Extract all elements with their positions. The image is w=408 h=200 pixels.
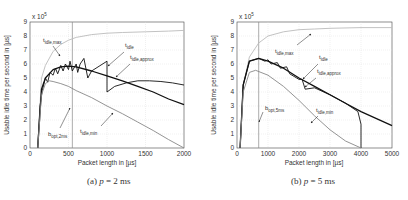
y-tick-label: 7 xyxy=(23,46,27,53)
x-axis-label-a: Packet length in [µs] xyxy=(78,159,137,167)
x-tick-label: 0 xyxy=(235,150,239,157)
y-tick-label: 1 xyxy=(230,130,234,137)
chart-b: 0123456789010002000300040005000 x 105 Us… xyxy=(210,12,400,167)
plot-area-b xyxy=(237,22,392,148)
y-tick-label: 6 xyxy=(23,60,27,67)
x-tick-label: 2000 xyxy=(292,150,307,157)
y-tick-label: 8 xyxy=(23,32,27,39)
y-tick-label: 0 xyxy=(23,144,27,151)
caption-a: (a) p = 2 ms xyxy=(87,176,131,186)
x-tick-label: 500 xyxy=(63,150,74,157)
y-tick-label: 8 xyxy=(230,32,234,39)
x-tick-label: 0 xyxy=(28,150,32,157)
x-tick-label: 1000 xyxy=(100,150,115,157)
x-tick-label: 1000 xyxy=(261,150,276,157)
y-tick-label: 4 xyxy=(23,88,27,95)
y-tick-label: 2 xyxy=(23,116,27,123)
y-multiplier-b: x 105 xyxy=(239,12,254,20)
y-tick-label: 1 xyxy=(23,130,27,137)
y-tick-label: 9 xyxy=(23,18,27,25)
x-tick-label: 1500 xyxy=(138,150,153,157)
figure: 01234567890500100015002000 x 105 Usable … xyxy=(0,0,408,200)
caption-b: (b) p = 5 ms xyxy=(291,176,335,186)
y-tick-label: 4 xyxy=(230,88,234,95)
y-tick-label: 0 xyxy=(230,144,234,151)
y-tick-label: 5 xyxy=(230,74,234,81)
x-tick-label: 4000 xyxy=(354,150,369,157)
y-tick-label: 6 xyxy=(230,60,234,67)
y-tick-label: 5 xyxy=(23,74,27,81)
chart-a: 01234567890500100015002000 x 105 Usable … xyxy=(3,12,192,167)
y-multiplier-a: x 105 xyxy=(32,12,47,20)
y-tick-label: 9 xyxy=(230,18,234,25)
x-tick-label: 2000 xyxy=(177,150,192,157)
x-tick-label: 3000 xyxy=(323,150,338,157)
y-tick-label: 7 xyxy=(230,46,234,53)
y-tick-label: 3 xyxy=(230,102,234,109)
y-axis-label-b: Usable idle time per second in [µs] xyxy=(210,35,218,135)
y-tick-label: 3 xyxy=(23,102,27,109)
x-axis-label-b: Packet length in [µs] xyxy=(285,159,344,167)
y-tick-label: 2 xyxy=(230,116,234,123)
y-axis-label-a: Usable idle time per second in [µs] xyxy=(3,35,11,135)
x-tick-label: 5000 xyxy=(385,150,400,157)
